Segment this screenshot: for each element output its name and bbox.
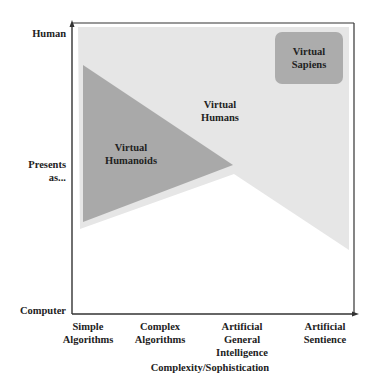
x-axis-arrow-icon [352,312,359,317]
y-axis-label-presents: Presents [28,158,66,171]
y-axis-label-computer: Computer [20,304,66,317]
virtual-sapiens-label-line2: Sapiens [282,58,336,71]
x-tick-line: Simple [58,320,118,333]
y-axis-label-presents-as: Presents as... [28,158,66,184]
x-tick-artificial-sentience: Artificial Sentience [296,320,354,346]
x-tick-simple-algorithms: Simple Algorithms [58,320,118,346]
x-tick-line: General [209,333,275,346]
x-tick-line: Complex [130,320,190,333]
x-tick-artificial-general-intelligence: Artificial General Intelligence [209,320,275,359]
x-tick-line: Intelligence [209,346,275,359]
x-axis-title: Complexity/Sophistication [140,361,280,374]
x-tick-line: Sentience [296,333,354,346]
x-tick-line: Algorithms [58,333,118,346]
x-tick-line: Artificial [296,320,354,333]
virtual-humanoids-label-line1: Virtual [100,141,162,154]
virtual-humanoids-label-line2: Humanoids [100,154,162,167]
x-tick-line: Algorithms [130,333,190,346]
x-tick-line: Artificial [209,320,275,333]
virtual-sapiens-label-line1: Virtual [282,45,336,58]
virtual-humans-label-line2: Humans [195,111,245,124]
y-axis-label-human: Human [32,27,66,40]
virtual-humanoids-label: Virtual Humanoids [100,141,162,167]
virtual-humans-label-line1: Virtual [195,98,245,111]
x-tick-complex-algorithms: Complex Algorithms [130,320,190,346]
virtual-sapiens-label: Virtual Sapiens [282,45,336,71]
y-axis-label-as: as... [28,171,66,184]
virtual-humans-label: Virtual Humans [195,98,245,124]
